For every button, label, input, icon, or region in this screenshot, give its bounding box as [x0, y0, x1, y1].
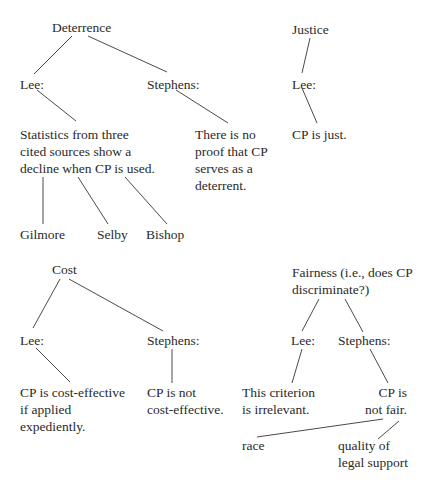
- lee-claim: CP is just.: [292, 126, 347, 143]
- lee-label: Lee:: [20, 76, 44, 93]
- lee-label: Lee:: [292, 76, 316, 93]
- lee-claim: CP is cost-effectiveif appliedexpedientl…: [20, 384, 125, 435]
- source-gilmore: Gilmore: [20, 226, 65, 243]
- topic-justice: Justice: [292, 21, 329, 38]
- lee-label: Lee:: [291, 332, 315, 349]
- topic-cost: Cost: [52, 261, 77, 278]
- source-bishop: Bishop: [146, 226, 184, 243]
- stephens-claim: There is noproof that CPserves as adeter…: [195, 126, 268, 194]
- stephens-label: Stephens:: [147, 76, 200, 93]
- source-selby: Selby: [97, 226, 128, 243]
- factor-legal-support: quality oflegal support: [338, 437, 408, 471]
- lee-claim: Statistics from threecited sources show …: [20, 126, 155, 177]
- lee-claim: This criterionis irrelevant.: [242, 384, 315, 418]
- stephens-label: Stephens:: [338, 332, 391, 349]
- topic-fairness: Fairness (i.e., does CPdiscriminate?): [292, 264, 413, 298]
- stephens-claim: CP is notcost-effective.: [147, 384, 224, 418]
- factor-race: race: [242, 437, 264, 454]
- lee-label: Lee:: [20, 332, 44, 349]
- stephens-label: Stephens:: [147, 332, 200, 349]
- stephens-claim: CP isnot fair.: [365, 384, 407, 418]
- topic-deterrence: Deterrence: [52, 19, 111, 36]
